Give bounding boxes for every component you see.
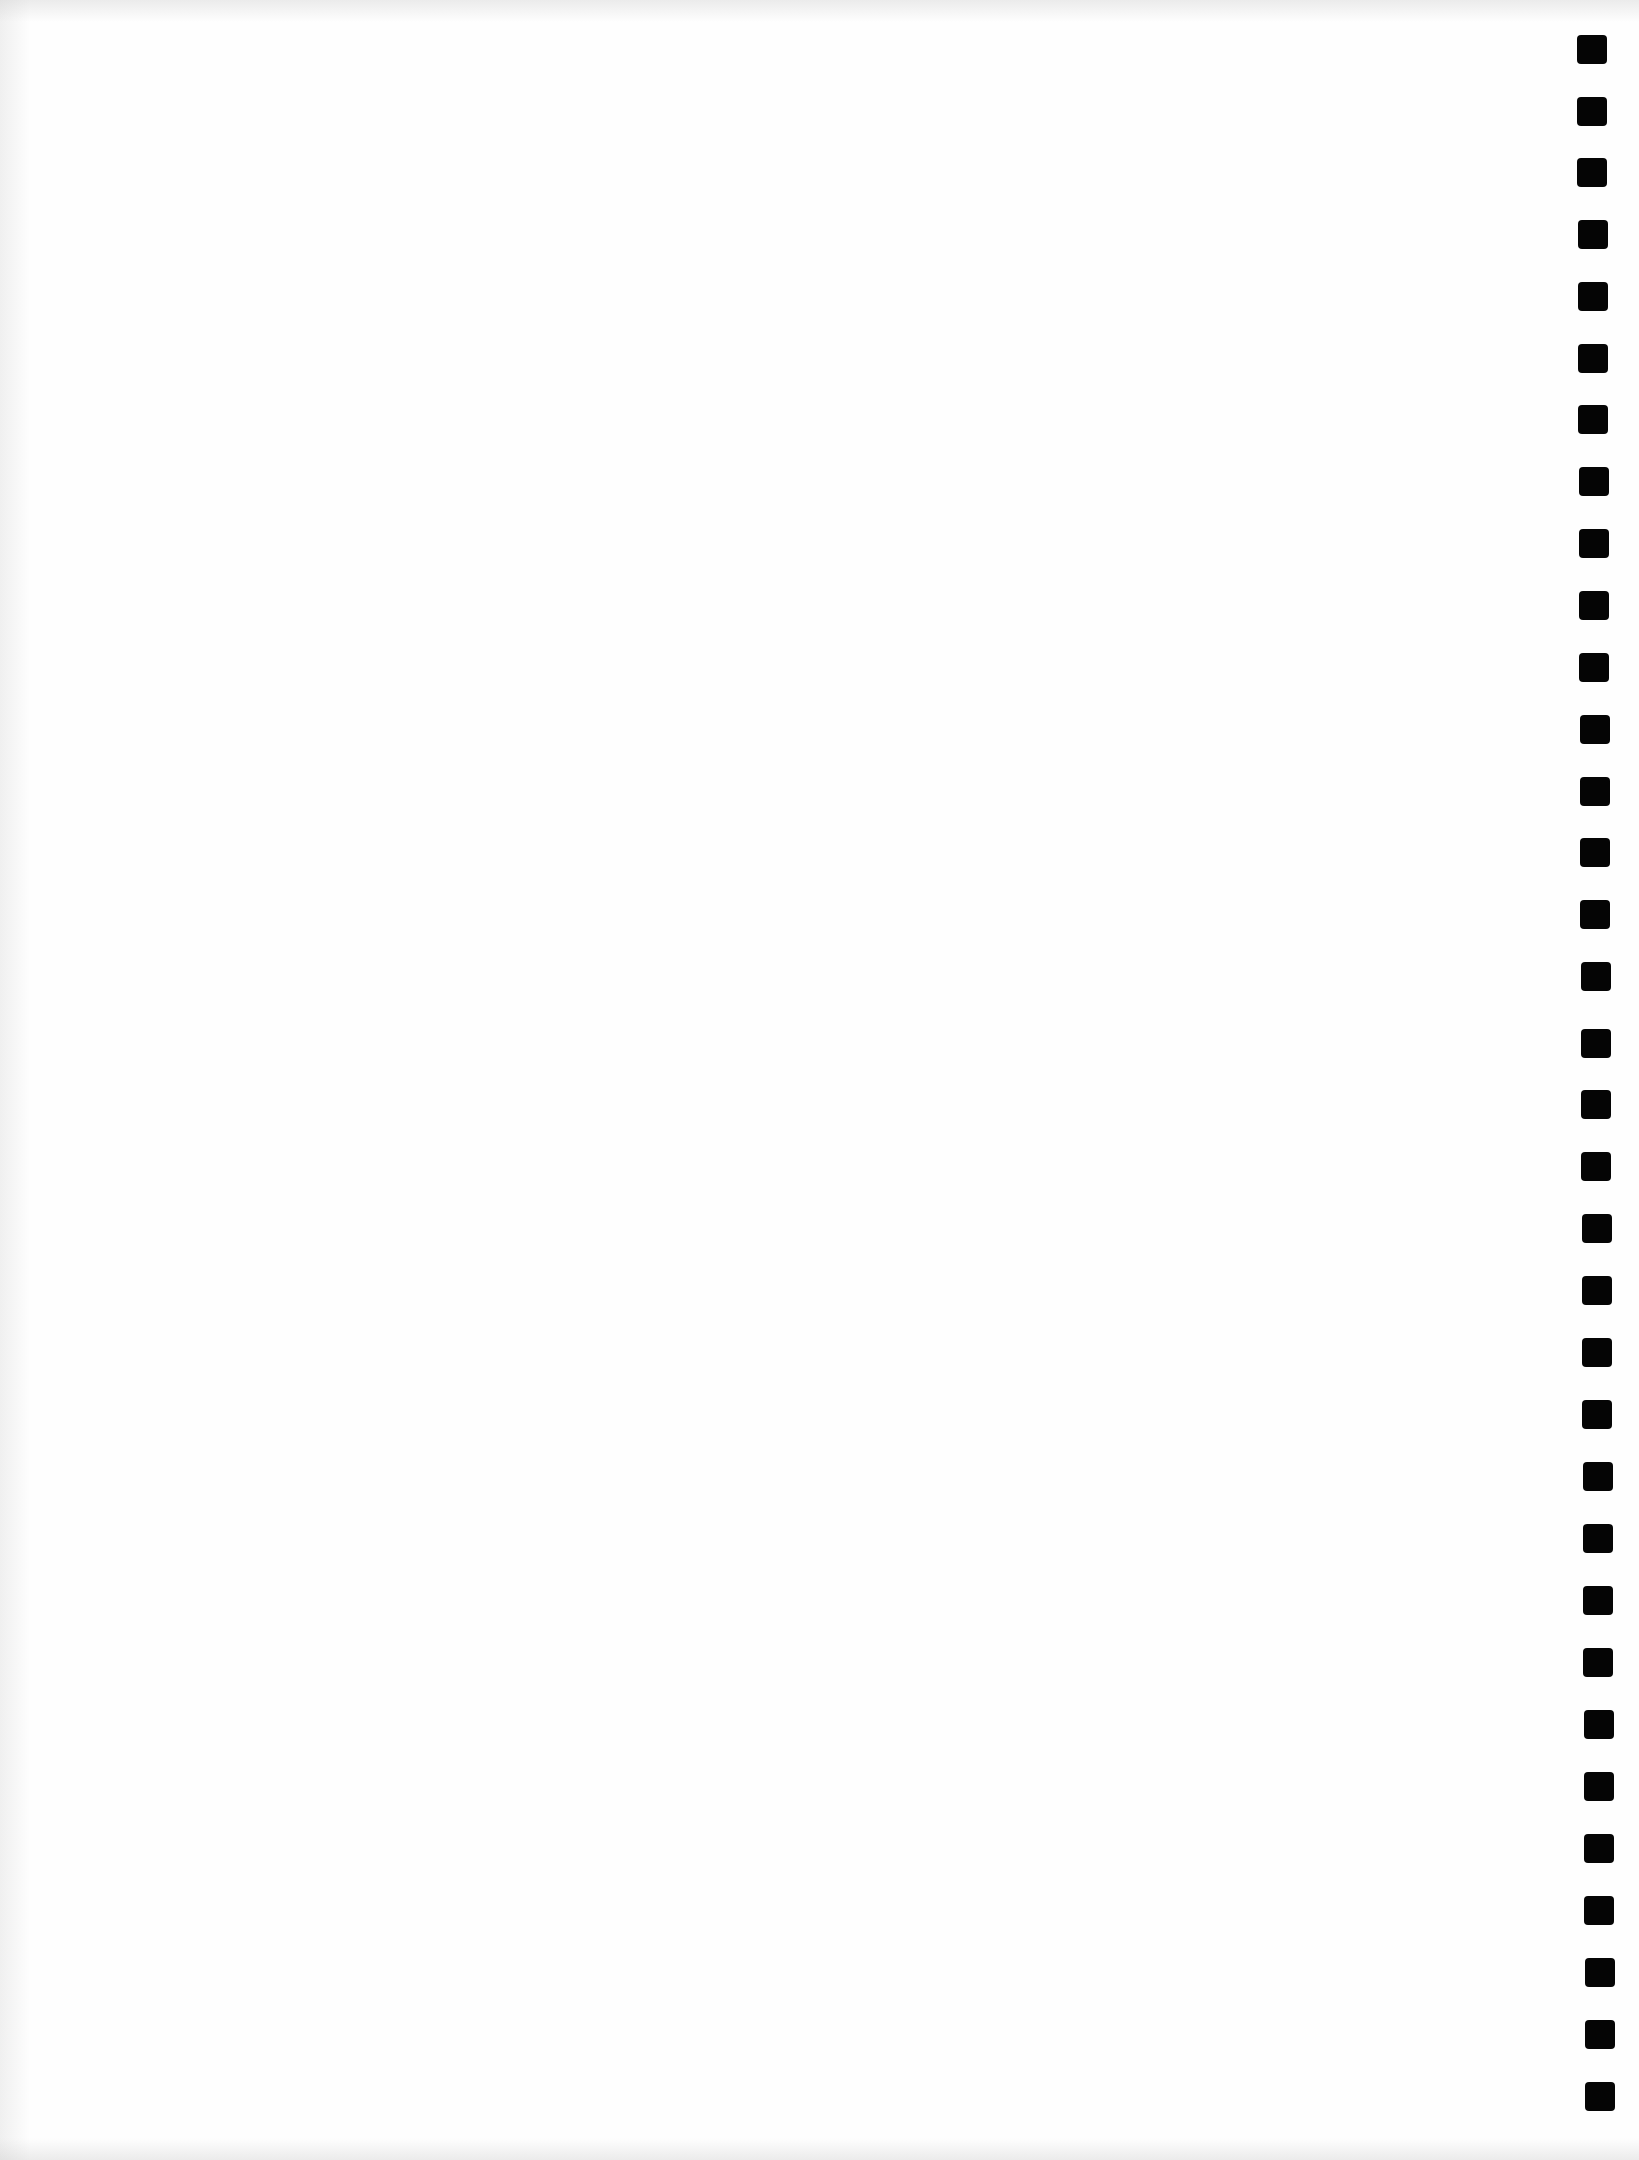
marker-square (1583, 1524, 1613, 1553)
marker-square (1582, 1338, 1612, 1367)
marker-square (1579, 591, 1609, 620)
marker-square (1582, 1400, 1612, 1429)
marker-square (1581, 1090, 1611, 1119)
marker-square (1579, 529, 1609, 558)
marker-square (1577, 158, 1607, 187)
marker-square (1584, 1834, 1614, 1863)
punch-hole-marker-strip (1549, 0, 1639, 2160)
marker-square (1577, 35, 1607, 64)
marker-square (1582, 1276, 1612, 1305)
marker-square (1578, 344, 1608, 373)
marker-square (1583, 1648, 1613, 1677)
marker-square (1577, 97, 1607, 126)
marker-square (1583, 1586, 1613, 1615)
marker-square (1585, 2082, 1615, 2111)
marker-square (1579, 653, 1609, 682)
marker-square (1580, 715, 1610, 744)
marker-square (1584, 1772, 1614, 1801)
marker-square (1578, 282, 1608, 311)
marker-square (1581, 962, 1611, 991)
marker-square (1579, 467, 1609, 496)
marker-square (1582, 1214, 1612, 1243)
marker-square (1584, 1710, 1614, 1739)
marker-square (1585, 2020, 1615, 2049)
marker-square (1580, 900, 1610, 929)
marker-square (1583, 1462, 1613, 1491)
marker-square (1580, 777, 1610, 806)
blank-document-page (0, 0, 1639, 2160)
marker-square (1585, 1958, 1615, 1987)
marker-square (1578, 220, 1608, 249)
marker-square (1578, 405, 1608, 434)
marker-square (1580, 838, 1610, 867)
marker-square (1584, 1896, 1614, 1925)
marker-square (1581, 1029, 1611, 1058)
marker-square (1581, 1152, 1611, 1181)
